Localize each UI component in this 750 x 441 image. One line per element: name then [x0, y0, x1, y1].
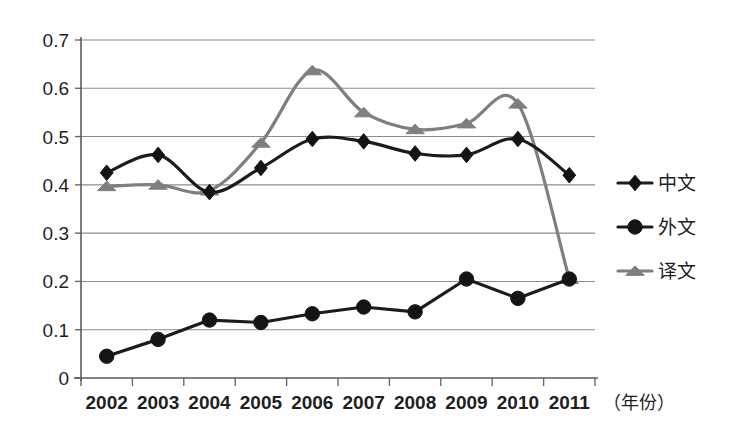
y-axis-tick-label: 0.2	[43, 271, 69, 292]
x-axis-tick-label: 2005	[240, 392, 283, 413]
data-point-marker-circle	[202, 313, 216, 327]
legend-item-label: 中文	[658, 173, 696, 194]
y-axis-tick-label: 0.7	[43, 30, 69, 51]
data-point-marker-circle	[628, 220, 642, 234]
y-axis-tick-label: 0.4	[43, 175, 70, 196]
chart-container: 00.10.20.30.40.50.60.7 20022003200420052…	[0, 0, 750, 441]
x-axis-tick-label: 2008	[394, 392, 436, 413]
data-point-marker-circle	[408, 305, 422, 319]
y-axis-tick-label: 0.6	[43, 78, 69, 99]
y-axis-tick-label: 0	[58, 368, 69, 389]
x-axis-tick-label: 2003	[137, 392, 179, 413]
data-point-marker-circle	[100, 349, 114, 363]
y-axis-tick-label: 0.5	[43, 127, 69, 148]
x-axis-unit-label: （年份）	[603, 393, 675, 413]
x-axis-tick-label: 2004	[188, 392, 231, 413]
data-point-marker-circle	[459, 272, 473, 286]
y-axis-tick-label: 0.1	[43, 320, 69, 341]
x-axis-tick-label: 2006	[291, 392, 333, 413]
y-axis-tick-label: 0.3	[43, 223, 69, 244]
data-point-marker-circle	[562, 272, 576, 286]
x-axis-tick-label: 2007	[343, 392, 385, 413]
legend-item-label: 译文	[658, 261, 696, 282]
data-point-marker-circle	[357, 300, 371, 314]
x-axis-tick-label: 2002	[86, 392, 128, 413]
legend-item-label: 外文	[658, 217, 696, 238]
x-axis-tick-label: 2011	[549, 392, 591, 413]
data-point-marker-circle	[151, 332, 165, 346]
x-axis-tick-label: 2010	[497, 392, 539, 413]
line-chart: 00.10.20.30.40.50.60.7 20022003200420052…	[0, 0, 750, 441]
data-point-marker-circle	[305, 307, 319, 321]
data-point-marker-circle	[254, 315, 268, 329]
x-axis-tick-label: 2009	[445, 392, 487, 413]
data-point-marker-circle	[511, 291, 525, 305]
